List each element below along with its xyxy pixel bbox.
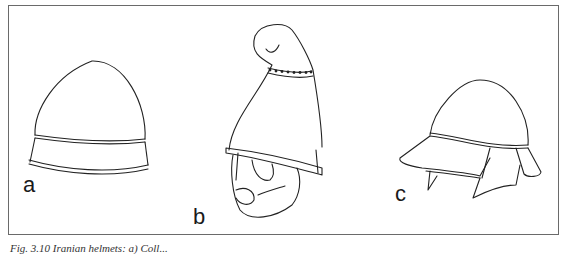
helmet-b-drawing <box>226 25 322 218</box>
helmet-a-drawing <box>29 61 148 174</box>
panel-label-a: a <box>23 174 35 196</box>
panel-label-b: b <box>193 206 205 228</box>
figure-caption: Fig. 3.10 Iranian helmets: a) Coll... <box>10 242 168 254</box>
panel-label-c: c <box>395 183 406 205</box>
helmet-c-drawing <box>400 80 541 198</box>
